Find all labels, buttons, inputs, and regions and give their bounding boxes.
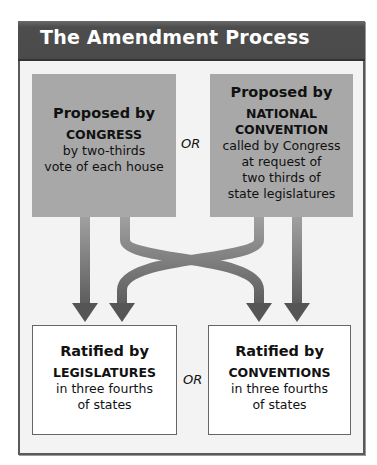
ratification-heading: Ratified by	[209, 342, 350, 360]
proposed-by-congress-box: Proposed by CONGRESS by two-thirds vote …	[32, 74, 176, 217]
ratification-body: CONVENTIONS	[209, 365, 350, 381]
proposal-detail: two thirds of	[210, 170, 353, 186]
ratification-or-label: OR	[183, 372, 202, 387]
proposal-body: CONGRESS	[32, 127, 176, 143]
ratification-heading: Ratified by	[33, 342, 176, 360]
proposal-detail: by two-thirds	[32, 143, 176, 159]
arrow-convention-to-legislatures	[122, 217, 259, 305]
ratified-by-conventions-box: Ratified by CONVENTIONS in three fourths…	[208, 325, 351, 435]
ratification-detail: in three fourths	[33, 381, 176, 397]
ratification-detail: in three fourths	[209, 381, 350, 397]
proposal-detail: vote of each house	[32, 159, 176, 175]
proposal-body: CONVENTION	[210, 122, 353, 138]
proposed-by-convention-box: Proposed by NATIONAL CONVENTION called b…	[210, 74, 353, 217]
proposal-heading: Proposed by	[32, 104, 176, 122]
arrowhead-icon	[284, 303, 310, 322]
arrowhead-icon	[72, 303, 98, 322]
proposal-heading: Proposed by	[210, 83, 353, 101]
ratification-detail: of states	[209, 397, 350, 413]
proposal-detail: at request of	[210, 154, 353, 170]
proposal-detail: state legislatures	[210, 186, 353, 202]
proposal-body: NATIONAL	[210, 106, 353, 122]
proposal-detail: called by Congress	[210, 138, 353, 154]
ratification-detail: of states	[33, 397, 176, 413]
ratified-by-legislatures-box: Ratified by LEGISLATURES in three fourth…	[32, 325, 177, 435]
ratification-body: LEGISLATURES	[33, 365, 176, 381]
arrowhead-icon	[109, 303, 135, 322]
proposal-or-label: OR	[181, 136, 200, 151]
arrowhead-icon	[246, 303, 272, 322]
